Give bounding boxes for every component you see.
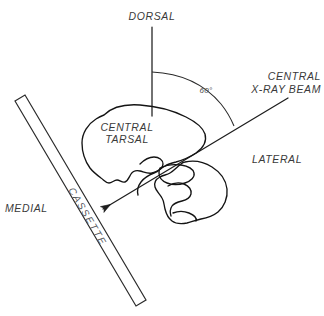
lateral-label: LATERAL — [252, 153, 302, 165]
central-tarsal-label-line1: CENTRAL — [100, 121, 153, 133]
dorsal-label: DORSAL — [129, 10, 176, 22]
lateral-tarsal-inner-detail-2 — [173, 212, 196, 222]
diagram-canvas: DORSAL MEDIAL LATERAL CENTRAL TARSAL CEN… — [0, 0, 324, 316]
beam-angle-label: 60° — [200, 86, 213, 95]
radiographic-positioning-diagram: DORSAL MEDIAL LATERAL CENTRAL TARSAL CEN… — [0, 0, 324, 316]
angle-arc-lower — [221, 104, 234, 126]
central-tarsal-label-line2: TARSAL — [105, 133, 149, 145]
cassette-label: CASSETTE — [66, 185, 109, 247]
medial-label: MEDIAL — [5, 202, 48, 214]
central-xray-beam-label-line2: X-RAY BEAM — [250, 83, 321, 95]
central-xray-beam-label-line1: CENTRAL — [268, 70, 321, 82]
